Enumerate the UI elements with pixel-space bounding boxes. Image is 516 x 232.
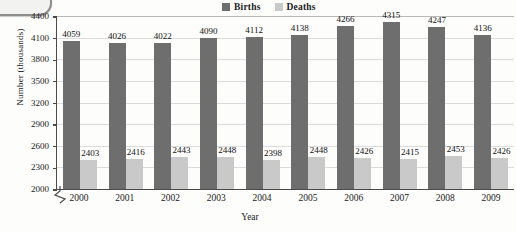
bar-births-2009: 4136 — [474, 35, 491, 189]
y-axis-tick-label: 2900 — [31, 119, 49, 129]
bar-births-2007: 4315 — [383, 22, 400, 189]
bar-value-label: 4022 — [154, 31, 172, 41]
bar-births-2001: 4026 — [109, 43, 126, 189]
bar-deaths-2004: 2398 — [263, 160, 280, 189]
x-axis-tick-label-2006: 2006 — [331, 193, 377, 203]
bar-births-2000: 4059 — [63, 41, 80, 189]
x-axis-tick-label-2009: 2009 — [468, 193, 514, 203]
x-axis-tick-label-2004: 2004 — [239, 193, 285, 203]
bar-group-2008: 42472453 — [423, 16, 469, 189]
bar-group-2007: 43152415 — [377, 16, 423, 189]
page-corner-artifact — [0, 0, 52, 16]
y-axis-tick-3500: 3500 — [31, 76, 57, 86]
y-axis-tick-label: 3500 — [31, 76, 49, 86]
bar-deaths-2009: 2426 — [491, 158, 508, 189]
bar-value-label: 4090 — [199, 26, 217, 36]
x-axis-tick-label-2005: 2005 — [285, 193, 331, 203]
bar-value-label: 2448 — [218, 145, 236, 155]
y-axis-tick-label: 3200 — [31, 98, 49, 108]
y-axis-tick-3200: 3200 — [31, 98, 57, 108]
bar-value-label: 2453 — [447, 144, 465, 154]
y-axis-tick-label: 4100 — [31, 33, 49, 43]
legend-label: Deaths — [287, 2, 316, 12]
legend-swatch-icon — [275, 3, 283, 11]
bar-value-label: 4247 — [428, 15, 446, 25]
bar-births-2004: 4112 — [246, 37, 263, 189]
y-axis-tick-2600: 2600 — [31, 141, 57, 151]
x-axis-tick-label-2007: 2007 — [377, 193, 423, 203]
y-axis-tick-4100: 4100 — [31, 33, 57, 43]
legend-label: Births — [234, 2, 261, 12]
bar-deaths-2001: 2416 — [126, 159, 143, 189]
legend-entry-deaths: Deaths — [275, 2, 316, 12]
y-axis-tick-label: 2000 — [31, 184, 49, 194]
bar-deaths-2006: 2426 — [354, 158, 371, 189]
bar-value-label: 4266 — [337, 14, 355, 24]
x-axis-tick-label-2001: 2001 — [102, 193, 148, 203]
bar-group-2005: 41382448 — [286, 16, 332, 189]
bar-value-label: 4026 — [108, 31, 126, 41]
bar-value-label: 2443 — [173, 145, 191, 155]
legend-entry-births: Births — [222, 2, 261, 12]
bar-value-label: 4138 — [291, 23, 309, 33]
bar-value-label: 4059 — [62, 29, 80, 39]
births-deaths-bar-chart: BirthsDeaths Number (thousands) 20002300… — [0, 0, 516, 232]
bar-group-2004: 41122398 — [240, 16, 286, 189]
y-axis-tick-label: 2600 — [31, 141, 49, 151]
bar-births-2006: 4266 — [337, 26, 354, 189]
bar-births-2008: 4247 — [428, 27, 445, 189]
y-axis-tick-label: 2300 — [31, 162, 49, 172]
bar-value-label: 2426 — [355, 146, 373, 156]
bar-group-2003: 40902448 — [194, 16, 240, 189]
bar-group-2009: 41362426 — [468, 16, 514, 189]
y-axis-tick-2900: 2900 — [31, 119, 57, 129]
bar-deaths-2005: 2448 — [308, 157, 325, 189]
bar-deaths-2007: 2415 — [400, 159, 417, 189]
x-axis-tick-labels: 2000200120022003200420052006200720082009 — [56, 193, 514, 203]
y-axis-title: Number (thousands) — [15, 0, 25, 137]
bar-value-label: 2398 — [264, 148, 282, 158]
x-axis-tick-label-2003: 2003 — [193, 193, 239, 203]
bar-deaths-2002: 2443 — [171, 157, 188, 189]
bar-deaths-2003: 2448 — [217, 157, 234, 189]
bar-group-2001: 40262416 — [103, 16, 149, 189]
x-axis-tick-label-2002: 2002 — [148, 193, 194, 203]
bar-value-label: 2403 — [81, 148, 99, 158]
x-axis-tick-label-2000: 2000 — [56, 193, 102, 203]
legend-swatch-icon — [222, 3, 230, 11]
bar-groups: 4059240340262416402224434090244841122398… — [57, 16, 514, 189]
bar-value-label: 2448 — [310, 145, 328, 155]
bar-value-label: 2415 — [401, 147, 419, 157]
x-axis-tick-label-2008: 2008 — [422, 193, 468, 203]
bar-group-2002: 40222443 — [148, 16, 194, 189]
x-axis-title: Year — [40, 212, 460, 222]
y-axis-tick-2300: 2300 — [31, 162, 57, 172]
bar-value-label: 4136 — [474, 23, 492, 33]
bar-births-2005: 4138 — [291, 35, 308, 189]
plot-area: 200023002600290032003500380041004400 405… — [56, 16, 514, 190]
bar-births-2003: 4090 — [200, 38, 217, 189]
y-axis-tick-label: 3800 — [31, 54, 49, 64]
bar-group-2000: 40592403 — [57, 16, 103, 189]
bar-value-label: 2426 — [492, 146, 510, 156]
bar-value-label: 4315 — [382, 10, 400, 20]
bar-deaths-2000: 2403 — [80, 160, 97, 189]
y-axis-tick-3800: 3800 — [31, 54, 57, 64]
bar-births-2002: 4022 — [154, 43, 171, 189]
bar-value-label: 4112 — [245, 25, 263, 35]
bar-deaths-2008: 2453 — [445, 156, 462, 189]
chart-legend: BirthsDeaths — [222, 1, 316, 13]
bar-group-2006: 42662426 — [331, 16, 377, 189]
bar-value-label: 2416 — [127, 147, 145, 157]
